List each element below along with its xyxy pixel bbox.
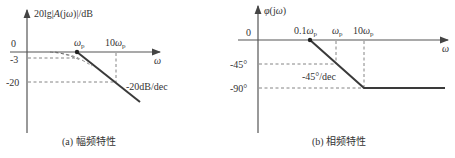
tick-label-wp: ωp: [74, 37, 85, 50]
tick-label-minus20db: -20: [6, 77, 19, 88]
phase-caption: (b) 相频特性: [312, 135, 366, 148]
tick-label-10wp-phase: 10ωp: [353, 25, 374, 38]
tick-label-minus90deg: -90°: [230, 83, 247, 94]
tick-label-0db: 0: [11, 38, 16, 49]
tick-label-minus45deg: -45°: [230, 59, 247, 70]
phase-slope-annotation: -45°/dec: [302, 71, 337, 82]
tick-label-0-1wp: 0.1ωp: [294, 25, 318, 38]
magnitude-y-label: 20lg|A(jω)|/dB: [34, 8, 93, 20]
phase-x-label: ω: [442, 43, 449, 54]
tick-label-wp-phase: ωp: [332, 25, 343, 38]
tick-label-10wp: 10ωp: [105, 37, 126, 50]
corner-point-0-1wp: [308, 38, 312, 42]
phase-plot: φ(jω) 0 -45° -90° 0.1ωp ωp 10ωp ω -45°/d…: [230, 5, 449, 148]
phase-y-label: φ(jω): [264, 5, 286, 17]
magnitude-slope-annotation: -20dB/dec: [126, 81, 168, 92]
magnitude-x-label: ω: [154, 55, 161, 66]
bode-diagram: 20lg|A(jω)|/dB 0 -3 -20 ωp 10ωp ω -20dB/…: [0, 0, 455, 158]
corner-point-wp: [75, 50, 79, 54]
magnitude-asymptote: [77, 52, 140, 102]
magnitude-caption: (a) 幅频特性: [62, 135, 116, 148]
magnitude-plot: 20lg|A(jω)|/dB 0 -3 -20 ωp 10ωp ω -20dB/…: [6, 8, 168, 148]
tick-label-0deg: 0: [246, 27, 251, 38]
tick-label-minus3db: -3: [10, 54, 18, 65]
